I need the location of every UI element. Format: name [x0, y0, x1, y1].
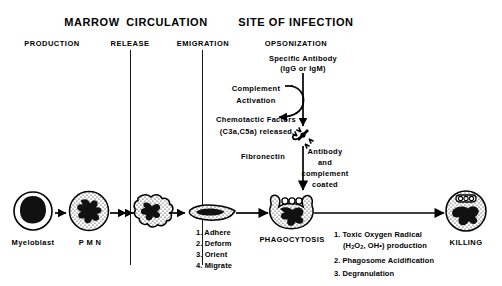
phagosome-granule-3: [296, 198, 302, 204]
migrating-neutrophil-cell: [189, 205, 235, 220]
myeloblast-cell: [14, 192, 52, 230]
phagosome-granule-1: [282, 198, 288, 204]
emigrating-neutrophil-cell: [134, 195, 173, 227]
pmn-cell: [70, 192, 109, 231]
diagram-artwork: [0, 0, 502, 286]
arrow-complement-activation-hook: [279, 86, 304, 117]
opsonized-particle: [293, 127, 314, 148]
phagocytosis-diagram: MARROW CIRCULATION SITE OF INFECTION PRO…: [0, 0, 502, 286]
phagocytosing-neutrophil-cell: [270, 195, 313, 228]
phagosome-granule-2: [289, 198, 295, 204]
killing-neutrophil-cell: [446, 191, 486, 231]
